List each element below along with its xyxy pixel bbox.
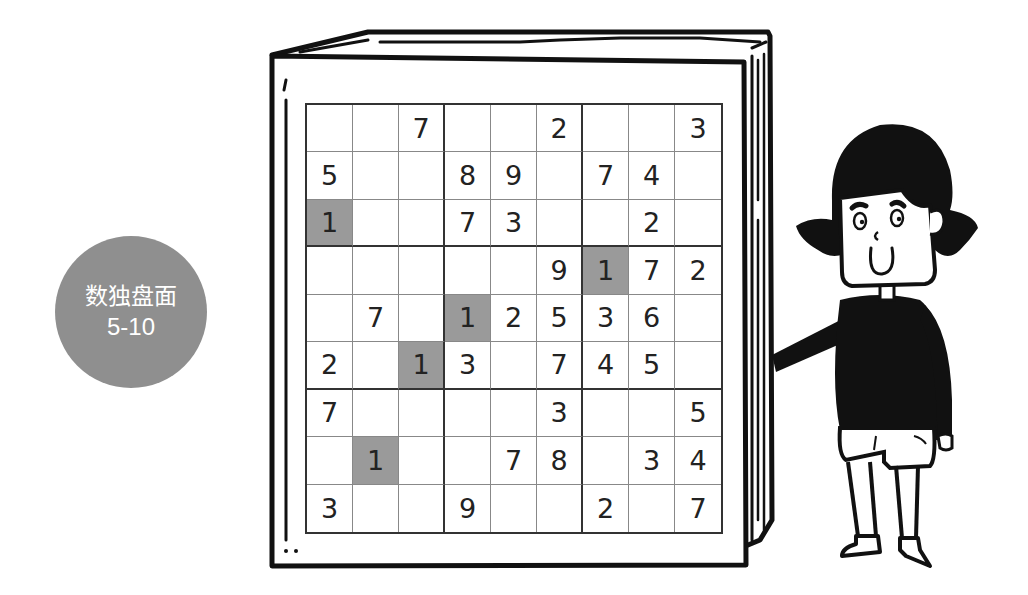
sudoku-cell: 3 xyxy=(445,342,491,389)
sudoku-cell: 2 xyxy=(307,342,353,389)
sudoku-cell: 1 xyxy=(353,437,399,484)
sudoku-cell xyxy=(583,390,629,437)
sudoku-cell: 5 xyxy=(537,295,583,342)
sudoku-cell xyxy=(537,152,583,199)
sudoku-cell: 5 xyxy=(675,390,721,437)
sudoku-cell: 4 xyxy=(583,342,629,389)
puzzle-badge: 数独盘面 5-10 xyxy=(55,236,207,388)
sudoku-cell: 3 xyxy=(307,485,353,532)
badge-title: 数独盘面 xyxy=(85,281,177,311)
sudoku-cell xyxy=(445,247,491,294)
sudoku-cell: 1 xyxy=(445,295,491,342)
sudoku-cell: 7 xyxy=(675,485,721,532)
sudoku-cell xyxy=(629,390,675,437)
sudoku-cell: 7 xyxy=(537,342,583,389)
sudoku-cell: 2 xyxy=(583,485,629,532)
sudoku-cell xyxy=(399,295,445,342)
sudoku-cell xyxy=(399,152,445,199)
sudoku-cell: 4 xyxy=(675,437,721,484)
sudoku-cell: 3 xyxy=(583,295,629,342)
sudoku-cell xyxy=(583,437,629,484)
sudoku-cell xyxy=(583,200,629,247)
sudoku-cell: 7 xyxy=(445,200,491,247)
sudoku-cell xyxy=(353,247,399,294)
sudoku-cell xyxy=(583,105,629,152)
sudoku-cell xyxy=(353,390,399,437)
sudoku-cell: 1 xyxy=(583,247,629,294)
sudoku-cell: 1 xyxy=(307,200,353,247)
sudoku-cell xyxy=(307,247,353,294)
sudoku-cell xyxy=(399,390,445,437)
sudoku-cell: 9 xyxy=(445,485,491,532)
sudoku-cell: 7 xyxy=(353,295,399,342)
sudoku-cell: 2 xyxy=(537,105,583,152)
sudoku-cell: 6 xyxy=(629,295,675,342)
sudoku-cell xyxy=(307,105,353,152)
sudoku-cell: 9 xyxy=(491,152,537,199)
sudoku-cell xyxy=(491,485,537,532)
sudoku-cell: 7 xyxy=(399,105,445,152)
sudoku-cell xyxy=(307,295,353,342)
sudoku-cell xyxy=(675,295,721,342)
sudoku-cell xyxy=(399,485,445,532)
sudoku-cell xyxy=(445,105,491,152)
sudoku-cell xyxy=(353,152,399,199)
sudoku-cell xyxy=(491,105,537,152)
sudoku-cell: 7 xyxy=(491,437,537,484)
sudoku-cell: 7 xyxy=(307,390,353,437)
sudoku-cell: 9 xyxy=(537,247,583,294)
sudoku-cell: 2 xyxy=(491,295,537,342)
sudoku-cell xyxy=(537,485,583,532)
sudoku-cell xyxy=(399,437,445,484)
sudoku-cell xyxy=(675,152,721,199)
sudoku-cell xyxy=(353,105,399,152)
sudoku-cell xyxy=(675,200,721,247)
sudoku-cell: 2 xyxy=(629,200,675,247)
sudoku-cell: 1 xyxy=(399,342,445,389)
sudoku-cell: 3 xyxy=(491,200,537,247)
sudoku-grid: 7235897417329172712536213745735178343927 xyxy=(305,103,723,534)
sudoku-cell xyxy=(307,437,353,484)
sudoku-cell xyxy=(629,105,675,152)
sudoku-cell xyxy=(353,485,399,532)
sudoku-cell: 7 xyxy=(583,152,629,199)
sudoku-cell: 3 xyxy=(537,390,583,437)
sudoku-cell xyxy=(629,485,675,532)
sudoku-cell xyxy=(445,437,491,484)
sudoku-cell xyxy=(491,342,537,389)
sudoku-cell: 7 xyxy=(629,247,675,294)
sudoku-cell: 3 xyxy=(629,437,675,484)
sudoku-cell xyxy=(353,200,399,247)
sudoku-cell: 5 xyxy=(307,152,353,199)
sudoku-cell xyxy=(491,247,537,294)
sudoku-cell xyxy=(445,390,491,437)
sudoku-cell: 3 xyxy=(675,105,721,152)
sudoku-cell: 4 xyxy=(629,152,675,199)
girl-pointing-icon xyxy=(772,124,978,566)
sudoku-cell xyxy=(491,390,537,437)
sudoku-cell: 8 xyxy=(537,437,583,484)
sudoku-cell xyxy=(353,342,399,389)
sudoku-cell: 2 xyxy=(675,247,721,294)
badge-subtitle: 5-10 xyxy=(107,311,155,343)
sudoku-cell: 8 xyxy=(445,152,491,199)
sudoku-cell xyxy=(399,200,445,247)
sudoku-cell xyxy=(537,200,583,247)
sudoku-cell xyxy=(675,342,721,389)
sudoku-cell: 5 xyxy=(629,342,675,389)
sudoku-cell xyxy=(399,247,445,294)
